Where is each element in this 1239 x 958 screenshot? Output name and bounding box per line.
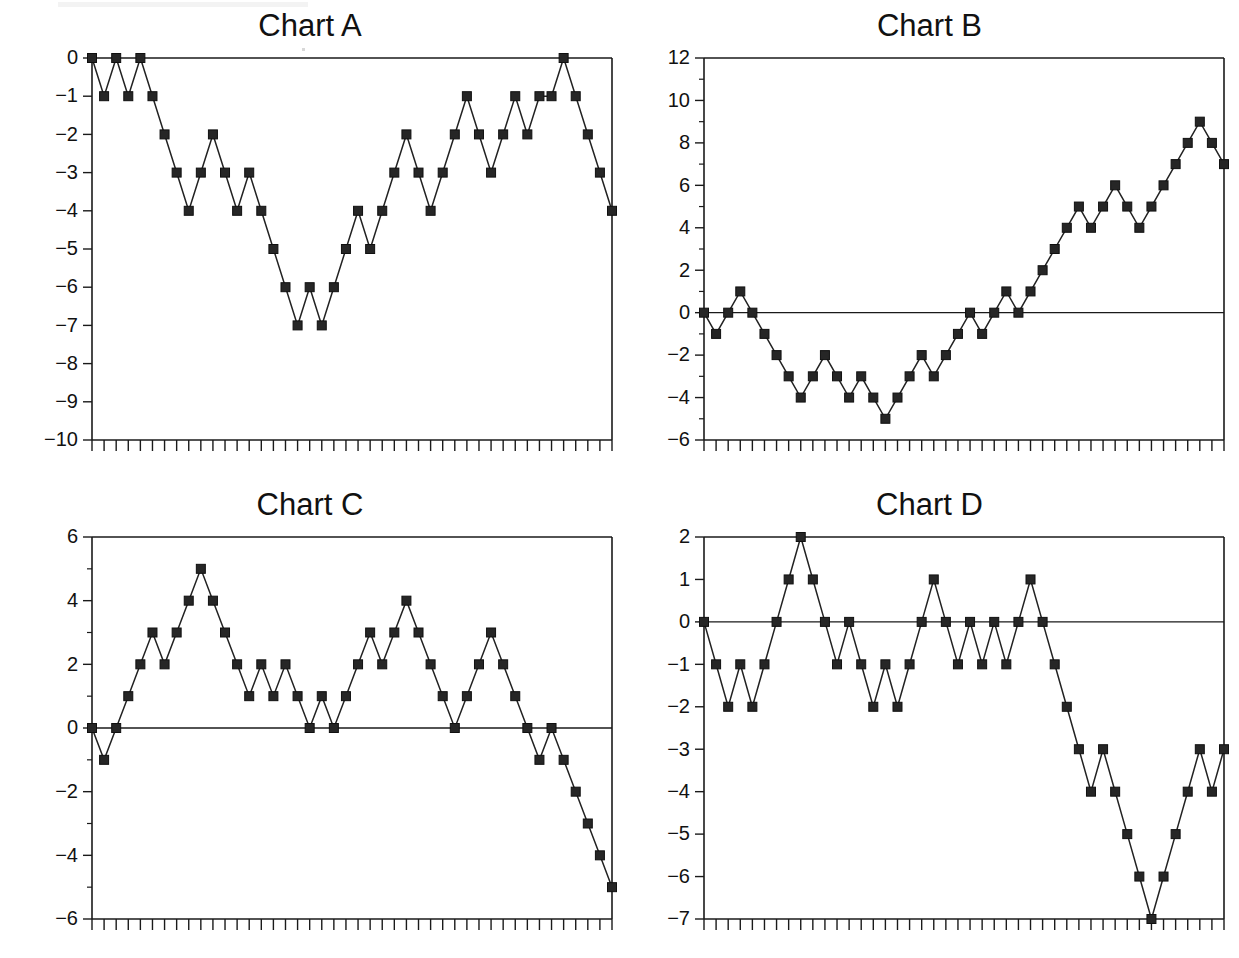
data-point-marker bbox=[1123, 830, 1132, 839]
data-point-marker bbox=[317, 321, 326, 330]
y-axis-tick-label: −3 bbox=[667, 738, 690, 760]
data-point-marker bbox=[820, 617, 829, 626]
data-point-marker bbox=[736, 660, 745, 669]
data-point-marker bbox=[881, 660, 890, 669]
data-point-marker bbox=[245, 168, 254, 177]
data-point-marker bbox=[1220, 745, 1229, 754]
data-point-marker bbox=[1062, 223, 1071, 232]
data-point-marker bbox=[474, 130, 483, 139]
data-point-marker bbox=[833, 660, 842, 669]
data-point-marker bbox=[595, 168, 604, 177]
data-point-marker bbox=[148, 628, 157, 637]
data-point-marker bbox=[366, 628, 375, 637]
data-point-marker bbox=[1147, 915, 1156, 924]
y-axis-tick-label: 2 bbox=[679, 259, 690, 281]
data-point-marker bbox=[1159, 872, 1168, 881]
y-axis-tick-label: −4 bbox=[667, 386, 690, 408]
data-point-marker bbox=[1014, 617, 1023, 626]
data-point-marker bbox=[221, 628, 230, 637]
data-point-marker bbox=[426, 206, 435, 215]
data-point-marker bbox=[1147, 202, 1156, 211]
data-point-marker bbox=[450, 724, 459, 733]
data-point-marker bbox=[136, 54, 145, 63]
data-point-marker bbox=[808, 372, 817, 381]
chart-c-title: Chart C bbox=[0, 487, 620, 523]
panel-chart-a: Chart A 0−1−2−3−4−5−6−7−8−9−10 bbox=[0, 0, 620, 479]
y-axis-tick-label: −4 bbox=[667, 780, 690, 802]
chart-b-plot-area: 121086420−2−4−6 bbox=[642, 52, 1232, 472]
y-axis-tick-label: −1 bbox=[55, 84, 78, 106]
data-point-marker bbox=[88, 724, 97, 733]
data-point-marker bbox=[414, 628, 423, 637]
y-axis-tick-label: −6 bbox=[667, 428, 690, 450]
data-point-marker bbox=[808, 575, 817, 584]
y-axis-tick-label: −4 bbox=[55, 199, 78, 221]
data-point-marker bbox=[329, 283, 338, 292]
y-axis-tick-label: −5 bbox=[55, 237, 78, 259]
data-point-marker bbox=[712, 660, 721, 669]
data-point-marker bbox=[535, 755, 544, 764]
data-point-marker bbox=[748, 308, 757, 317]
data-point-marker bbox=[941, 351, 950, 360]
data-point-marker bbox=[1099, 745, 1108, 754]
chart-b-title: Chart B bbox=[620, 8, 1239, 44]
data-point-marker bbox=[1123, 202, 1132, 211]
chart-a-title: Chart A bbox=[0, 8, 620, 44]
series-line bbox=[704, 122, 1224, 419]
data-point-marker bbox=[893, 702, 902, 711]
data-point-marker bbox=[1171, 160, 1180, 169]
data-point-marker bbox=[184, 206, 193, 215]
y-axis-tick-label: −5 bbox=[667, 822, 690, 844]
data-point-marker bbox=[233, 660, 242, 669]
data-point-marker bbox=[784, 372, 793, 381]
data-point-marker bbox=[905, 660, 914, 669]
y-axis-tick-label: −4 bbox=[55, 844, 78, 866]
data-point-marker bbox=[329, 724, 338, 733]
data-point-marker bbox=[305, 283, 314, 292]
chart-d-plot-area: 210−1−2−3−4−5−6−7 bbox=[642, 531, 1232, 951]
data-point-marker bbox=[978, 329, 987, 338]
data-point-marker bbox=[736, 287, 745, 296]
data-point-marker bbox=[100, 755, 109, 764]
y-axis-tick-label: −6 bbox=[55, 907, 78, 929]
data-point-marker bbox=[917, 351, 926, 360]
panel-chart-c: Chart C 6420−2−4−6 bbox=[0, 479, 620, 958]
data-point-marker bbox=[833, 372, 842, 381]
data-point-marker bbox=[184, 596, 193, 605]
y-axis-tick-label: 8 bbox=[679, 131, 690, 153]
data-point-marker bbox=[245, 692, 254, 701]
data-point-marker bbox=[796, 393, 805, 402]
data-point-marker bbox=[208, 596, 217, 605]
chart-d-title: Chart D bbox=[620, 487, 1239, 523]
data-point-marker bbox=[402, 596, 411, 605]
data-point-marker bbox=[208, 130, 217, 139]
data-point-marker bbox=[462, 692, 471, 701]
y-axis-tick-label: 10 bbox=[668, 89, 690, 111]
y-axis-tick-label: −1 bbox=[667, 653, 690, 675]
data-point-marker bbox=[1086, 223, 1095, 232]
data-point-marker bbox=[499, 130, 508, 139]
data-point-marker bbox=[124, 692, 133, 701]
y-axis-tick-label: 0 bbox=[67, 716, 78, 738]
data-point-marker bbox=[1159, 181, 1168, 190]
data-point-marker bbox=[547, 92, 556, 101]
data-point-marker bbox=[1195, 117, 1204, 126]
data-point-marker bbox=[1111, 787, 1120, 796]
y-axis-tick-label: −2 bbox=[667, 343, 690, 365]
data-point-marker bbox=[1207, 787, 1216, 796]
data-point-marker bbox=[160, 130, 169, 139]
panel-chart-d: Chart D 210−1−2−3−4−5−6−7 bbox=[620, 479, 1239, 958]
series-line bbox=[92, 58, 612, 325]
data-point-marker bbox=[196, 564, 205, 573]
data-point-marker bbox=[1050, 660, 1059, 669]
data-point-marker bbox=[281, 660, 290, 669]
data-point-marker bbox=[305, 724, 314, 733]
chart-a-plot-area: 0−1−2−3−4−5−6−7−8−9−10 bbox=[30, 52, 620, 472]
series-line bbox=[704, 537, 1224, 919]
data-point-marker bbox=[136, 660, 145, 669]
data-point-marker bbox=[893, 393, 902, 402]
data-point-marker bbox=[487, 168, 496, 177]
data-point-marker bbox=[426, 660, 435, 669]
data-point-marker bbox=[257, 660, 266, 669]
data-point-marker bbox=[929, 575, 938, 584]
